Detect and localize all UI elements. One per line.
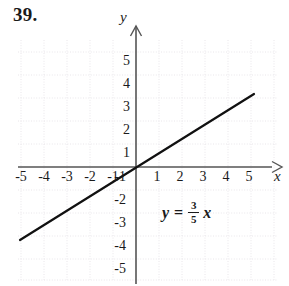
y-tick-label--2: -2	[106, 192, 126, 208]
equation-variable: x	[203, 204, 211, 222]
x-tick-label--3: -3	[58, 169, 76, 185]
y-axis	[131, 26, 142, 284]
fraction-denominator: 5	[189, 214, 199, 225]
y-tick-label--3: -3	[106, 215, 126, 231]
x-axis-label: x	[274, 168, 281, 185]
x-tick-label--4: -4	[35, 169, 53, 185]
y-axis-label: y	[120, 9, 127, 26]
equation-annotation: y = 3 5 x	[162, 200, 211, 225]
x-tick-label-1: 1	[148, 169, 166, 185]
y-tick-label-4: 4	[110, 76, 130, 92]
x-tick-label-3: 3	[194, 169, 212, 185]
y-tick-label-1: 1	[110, 145, 130, 161]
figure-container: 39.	[0, 0, 289, 286]
y-tick-label--5: -5	[106, 261, 126, 277]
y-tick-label-3: 3	[110, 99, 130, 115]
x-tick-label--5: -5	[12, 169, 30, 185]
y-tick-label-2: 2	[110, 122, 130, 138]
equation-equals-sign: =	[174, 204, 183, 222]
fraction-numerator: 3	[189, 200, 199, 211]
coordinate-plane	[0, 0, 289, 286]
x-tick-label-4: 4	[217, 169, 235, 185]
y-tick-label--1: -1	[106, 169, 126, 185]
x-tick-label--2: -2	[81, 169, 99, 185]
x-tick-label-2: 2	[171, 169, 189, 185]
equation-fraction: 3 5	[188, 200, 199, 225]
equation-lhs: y	[162, 204, 169, 222]
y-tick-label--4: -4	[106, 238, 126, 254]
x-tick-label-5: 5	[240, 169, 258, 185]
y-tick-label-5: 5	[110, 53, 130, 69]
